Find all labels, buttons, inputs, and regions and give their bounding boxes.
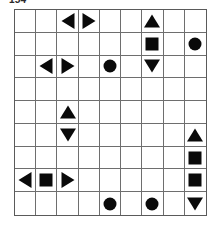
grid-cell-r2-c8[interactable] [164,33,185,56]
triangle-right-icon [61,58,74,74]
triangle-down-icon [144,60,160,73]
grid-cell-r6-c6[interactable] [121,124,142,147]
grid-cell-r7-c4[interactable] [79,147,100,170]
grid-cell-r3-c1[interactable] [15,56,36,79]
grid-cell-r8-c2[interactable] [36,169,57,192]
grid-cell-r1-c1[interactable] [15,10,36,33]
grid-cell-r2-c6[interactable] [121,33,142,56]
symbol-grid [14,9,207,216]
triangle-left-icon [61,13,74,29]
grid-cell-r6-c9[interactable] [185,124,206,147]
grid-cell-r4-c2[interactable] [36,78,57,101]
grid-cell-r3-c9[interactable] [185,56,206,79]
grid-cell-r8-c7[interactable] [142,169,163,192]
grid-cell-r9-c1[interactable] [15,192,36,215]
triangle-down-icon [187,197,203,210]
grid-cell-r6-c1[interactable] [15,124,36,147]
circle-icon [103,197,116,210]
grid-cell-r8-c1[interactable] [15,169,36,192]
grid-cell-r4-c1[interactable] [15,78,36,101]
triangle-up-icon [187,128,203,141]
grid-cell-r5-c7[interactable] [142,101,163,124]
circle-icon [146,197,159,210]
grid-cell-r7-c3[interactable] [57,147,78,170]
grid-cell-r5-c3[interactable] [57,101,78,124]
grid-cell-r2-c5[interactable] [100,33,121,56]
grid-cell-r9-c7[interactable] [142,192,163,215]
grid-cell-r3-c3[interactable] [57,56,78,79]
grid-cell-r6-c5[interactable] [100,124,121,147]
circle-icon [103,60,116,73]
grid-cell-r6-c8[interactable] [164,124,185,147]
grid-cell-r9-c9[interactable] [185,192,206,215]
square-icon [146,37,159,50]
grid-cell-r7-c9[interactable] [185,147,206,170]
puzzle-figure: 154 [0,0,222,228]
grid-cell-r5-c9[interactable] [185,101,206,124]
grid-cell-r3-c5[interactable] [100,56,121,79]
figure-number-label: 154 [9,0,26,5]
grid-cell-r5-c1[interactable] [15,101,36,124]
grid-cell-r4-c5[interactable] [100,78,121,101]
grid-cell-r5-c2[interactable] [36,101,57,124]
grid-cell-r8-c8[interactable] [164,169,185,192]
grid-cell-r1-c6[interactable] [121,10,142,33]
grid-cell-r4-c6[interactable] [121,78,142,101]
grid-cell-r5-c8[interactable] [164,101,185,124]
triangle-left-icon [40,58,53,74]
grid-cell-r4-c4[interactable] [79,78,100,101]
grid-cell-r3-c6[interactable] [121,56,142,79]
grid-cell-r1-c8[interactable] [164,10,185,33]
grid-cell-r2-c3[interactable] [57,33,78,56]
grid-cell-r1-c4[interactable] [79,10,100,33]
grid-cell-r8-c6[interactable] [121,169,142,192]
grid-cell-r8-c4[interactable] [79,169,100,192]
grid-cell-r3-c4[interactable] [79,56,100,79]
grid-cell-r2-c7[interactable] [142,33,163,56]
grid-cell-r2-c1[interactable] [15,33,36,56]
grid-cell-r5-c5[interactable] [100,101,121,124]
grid-cell-r1-c5[interactable] [100,10,121,33]
triangle-up-icon [144,14,160,27]
grid-cell-r6-c2[interactable] [36,124,57,147]
grid-cell-r8-c5[interactable] [100,169,121,192]
grid-cell-r4-c3[interactable] [57,78,78,101]
grid-cell-r9-c3[interactable] [57,192,78,215]
grid-cell-r7-c7[interactable] [142,147,163,170]
grid-cell-r5-c4[interactable] [79,101,100,124]
grid-cell-r3-c8[interactable] [164,56,185,79]
grid-cell-r4-c8[interactable] [164,78,185,101]
grid-cell-r6-c3[interactable] [57,124,78,147]
grid-cell-r7-c5[interactable] [100,147,121,170]
square-icon [189,151,202,164]
grid-cell-r9-c2[interactable] [36,192,57,215]
grid-cell-r7-c8[interactable] [164,147,185,170]
grid-cell-r3-c7[interactable] [142,56,163,79]
grid-cell-r2-c4[interactable] [79,33,100,56]
triangle-left-icon [19,172,32,188]
grid-cell-r8-c9[interactable] [185,169,206,192]
grid-cell-r1-c7[interactable] [142,10,163,33]
grid-cell-r5-c6[interactable] [121,101,142,124]
square-icon [40,174,53,187]
grid-cell-r1-c3[interactable] [57,10,78,33]
triangle-right-icon [82,13,95,29]
grid-cell-r3-c2[interactable] [36,56,57,79]
grid-cell-r9-c4[interactable] [79,192,100,215]
grid-cell-r1-c9[interactable] [185,10,206,33]
grid-cell-r4-c9[interactable] [185,78,206,101]
grid-cell-r6-c4[interactable] [79,124,100,147]
grid-cell-r8-c3[interactable] [57,169,78,192]
grid-cell-r7-c6[interactable] [121,147,142,170]
grid-cell-r2-c9[interactable] [185,33,206,56]
grid-cell-r4-c7[interactable] [142,78,163,101]
grid-cell-r6-c7[interactable] [142,124,163,147]
grid-cell-r9-c8[interactable] [164,192,185,215]
grid-cell-r9-c6[interactable] [121,192,142,215]
grid-cell-r2-c2[interactable] [36,33,57,56]
grid-cell-r7-c2[interactable] [36,147,57,170]
grid-cell-r7-c1[interactable] [15,147,36,170]
grid-cell-r9-c5[interactable] [100,192,121,215]
grid-cell-r1-c2[interactable] [36,10,57,33]
triangle-right-icon [61,172,74,188]
